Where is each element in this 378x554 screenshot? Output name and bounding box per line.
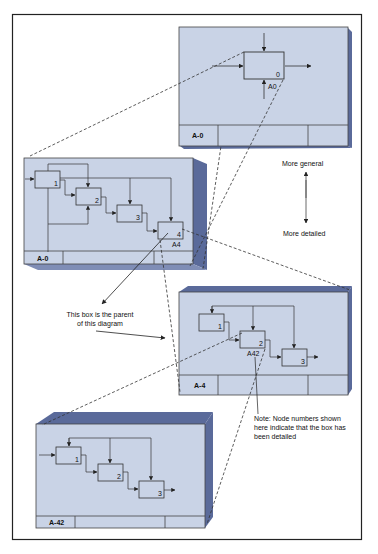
idef0-decomposition-diagram: 0 A0 A-0 1 2 3 4 A4 A-0 1 2 A42 3 A-4 1 … [0,0,378,554]
panel-footer-label: A-4 [194,381,205,390]
parent-note: This box is the parent of this diagram [50,310,150,328]
box-number: 0 [276,70,280,79]
node-label: A0 [268,82,277,91]
box-number: 2 [117,472,121,481]
more-general-label: More general [282,159,323,168]
box-number: 3 [301,357,305,366]
box-number: 2 [259,339,263,348]
parent-note-line: of this diagram [50,319,150,328]
box-number: 1 [54,179,58,188]
panel-a4 [179,286,352,395]
panel-a42 [36,412,213,528]
node-note-line: been detailed [254,432,364,441]
box-number: 1 [75,455,79,464]
box-number: 3 [136,213,140,222]
box-number: 1 [218,322,222,331]
box-number: 2 [95,196,99,205]
panel-footer-label: A-42 [49,518,64,527]
panel-footer-label: A-0 [37,254,48,263]
panel-a0 [24,158,207,270]
panel-footer-label: A-0 [192,131,203,140]
box-number: 4 [177,230,181,239]
parent-note-line: This box is the parent [50,310,150,319]
node-label: A4 [172,240,181,249]
panel-a0-top [179,27,352,149]
node-note-line: Note: Node numbers shown [254,414,364,423]
node-note-line: here indicate that the box has [254,423,364,432]
box-number: 3 [158,489,162,498]
node-numbers-note: Note: Node numbers shown here indicate t… [254,414,364,441]
more-detailed-label: More detailed [283,229,325,238]
node-label: A42 [247,349,259,358]
